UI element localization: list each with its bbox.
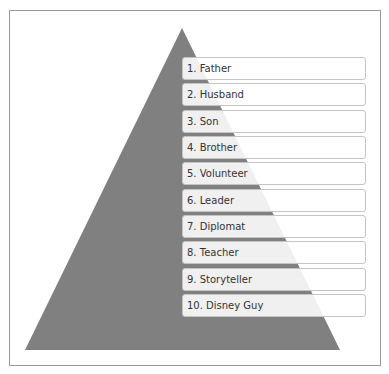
role-item-10: 10. Disney Guy — [182, 294, 366, 317]
role-item-7: 7. Diplomat — [182, 215, 366, 238]
role-item-5: 5. Volunteer — [182, 162, 366, 185]
role-item-1: 1. Father — [182, 57, 366, 80]
role-item-2: 2. Husband — [182, 83, 366, 106]
role-item-6: 6. Leader — [182, 189, 366, 212]
role-item-3: 3. Son — [182, 110, 366, 133]
role-item-4: 4. Brother — [182, 136, 366, 159]
role-item-9: 9. Storyteller — [182, 268, 366, 291]
role-item-8: 8. Teacher — [182, 241, 366, 264]
